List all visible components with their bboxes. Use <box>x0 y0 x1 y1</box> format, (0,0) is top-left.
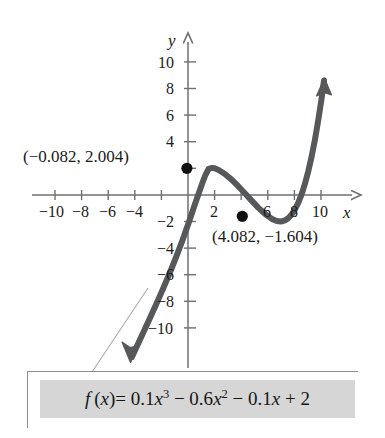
x-tick-label-2: 2 <box>210 204 218 220</box>
x-tick-label-neg10: −10 <box>39 204 64 220</box>
local-minimum-point <box>237 211 248 222</box>
y-tick-label-6: 6 <box>166 108 174 124</box>
y-tick-label-10: 10 <box>158 55 174 71</box>
local-maximum-label: (−0.082, 2.004) <box>23 148 129 165</box>
x-tick-label-8: 8 <box>290 204 298 220</box>
y-tick-label-neg2: −2 <box>157 214 174 230</box>
local-minimum-label: (4.082, −1.604) <box>212 228 318 245</box>
y-tick-label-4: 4 <box>166 134 174 150</box>
y-tick-label-8: 8 <box>166 81 174 97</box>
y-tick-label-neg8: −8 <box>157 294 174 310</box>
x-axis-label: x <box>343 204 351 221</box>
x-tick-label-neg6: −6 <box>99 204 116 220</box>
function-graph-figure: 10 8 6 4 −2 −4 −6 −8 −10 −10 −8 −6 −4 2 … <box>0 0 385 438</box>
x-tick-label-neg4: −4 <box>126 204 143 220</box>
equation-text: f (x)= 0.1x3 − 0.6x2 − 0.1x + 2 <box>85 388 310 410</box>
x-tick-label-10: 10 <box>312 204 328 220</box>
x-tick-label-6: 6 <box>263 204 271 220</box>
x-tick-label-neg8: −8 <box>72 204 89 220</box>
callout-leader-line <box>92 288 148 372</box>
equation-callout-box: f (x)= 0.1x3 − 0.6x2 − 0.1x + 2 <box>40 380 355 418</box>
y-tick-label-neg10: −10 <box>148 321 173 337</box>
y-axis-label: y <box>168 32 176 49</box>
local-maximum-point <box>181 163 192 174</box>
y-tick-label-neg6: −6 <box>157 267 174 283</box>
y-tick-label-neg4: −4 <box>157 241 174 257</box>
